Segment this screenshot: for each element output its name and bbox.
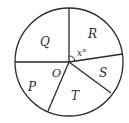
- sector-label-s: S: [99, 66, 107, 80]
- sector-label-q: Q: [40, 35, 50, 49]
- center-label: O: [52, 67, 61, 80]
- circle-graph-svg: x° O Q R S T P: [0, 0, 129, 123]
- sector-label-r: R: [87, 27, 97, 41]
- angle-label: x°: [77, 48, 87, 58]
- sector-label-t: T: [71, 89, 80, 103]
- circle-graph-diagram: x° O Q R S T P: [0, 0, 129, 123]
- angle-arc: [69, 56, 75, 61]
- sector-label-p: P: [27, 80, 37, 94]
